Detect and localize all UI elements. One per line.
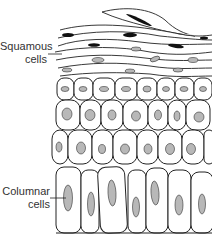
label-squamous-cells: Squamous cells bbox=[0, 40, 47, 66]
label-columnar-cells: Columnar cells bbox=[0, 185, 50, 211]
